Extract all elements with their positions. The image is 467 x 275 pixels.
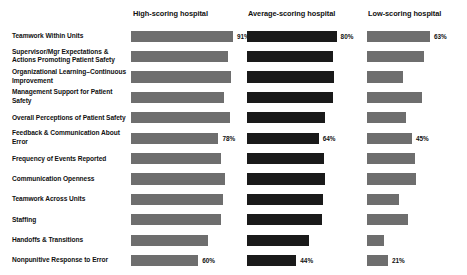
bar	[367, 173, 416, 184]
bar-value-label: 44%	[300, 257, 313, 264]
chart-row: Teamwork Within Units91%80%63%	[0, 26, 467, 46]
row-label: Organizational Learning–Continuous Impro…	[12, 68, 130, 85]
row-label: Communication Openness	[12, 175, 130, 184]
bar-cell	[247, 230, 359, 250]
bar	[247, 31, 337, 42]
column-headers: High-scoring hospital Average-scoring ho…	[0, 9, 467, 23]
bar	[247, 112, 325, 123]
bar-cell	[247, 169, 359, 189]
bar	[367, 51, 424, 62]
column-header-high-scoring: High-scoring hospital	[133, 9, 208, 18]
column-header-low-scoring: Low-scoring hospital	[368, 9, 441, 18]
bar-cell	[131, 230, 243, 250]
bar	[367, 92, 422, 103]
bar-cell: 64%	[247, 128, 359, 148]
bar	[367, 255, 388, 266]
bar-cell: 60%	[131, 250, 243, 270]
bar-cell: 21%	[367, 250, 467, 270]
bar-cell: 80%	[247, 26, 359, 46]
row-label: Supervisor/Mgr Expectations & Actions Pr…	[12, 48, 130, 65]
bar	[247, 153, 324, 164]
row-label: Teamwork Across Units	[12, 195, 130, 204]
bar	[367, 194, 399, 205]
row-label: Nonpunitive Response to Error	[12, 256, 130, 265]
bar	[247, 255, 296, 266]
chart-row: Nonpunitive Response to Error60%44%21%	[0, 250, 467, 270]
row-label: Frequency of Events Reported	[12, 154, 130, 163]
bar-value-label: 60%	[202, 257, 215, 264]
bar	[131, 31, 233, 42]
bar-cell	[367, 169, 467, 189]
bar-cell: 91%	[131, 26, 243, 46]
bar	[367, 153, 415, 164]
bar	[131, 112, 230, 123]
bar	[367, 112, 406, 123]
bar-cell	[367, 210, 467, 230]
bar-cell	[367, 46, 467, 66]
bar-value-label: 21%	[392, 257, 405, 264]
chart-row: Feedback & Communication About Error78%6…	[0, 128, 467, 148]
column-header-average-scoring: Average-scoring hospital	[248, 9, 335, 18]
chart-row: Overall Perceptions of Patient Safety	[0, 108, 467, 128]
bar-cell	[367, 108, 467, 128]
bar	[247, 214, 322, 225]
bar	[247, 173, 325, 184]
bar-cell	[367, 148, 467, 168]
chart-row: Management Support for Patient Safety	[0, 87, 467, 107]
bar-cell	[131, 169, 243, 189]
chart-row: Organizational Learning–Continuous Impro…	[0, 67, 467, 87]
row-label: Overall Perceptions of Patient Safety	[12, 113, 130, 122]
bar-value-label: 45%	[416, 135, 429, 142]
bar-value-label: 63%	[434, 33, 447, 40]
bar	[247, 51, 333, 62]
bar	[131, 194, 223, 205]
chart-row: Communication Openness	[0, 169, 467, 189]
chart-row: Frequency of Events Reported	[0, 148, 467, 168]
bar-cell	[247, 46, 359, 66]
bar-cell	[247, 148, 359, 168]
row-label: Feedback & Communication About Error	[12, 130, 130, 147]
bar-cell	[367, 189, 467, 209]
chart-rows: Teamwork Within Units91%80%63%Supervisor…	[0, 26, 467, 271]
bar	[131, 133, 218, 144]
bar-cell	[131, 210, 243, 230]
bar	[247, 235, 309, 246]
bar	[367, 31, 430, 42]
bar-cell	[367, 87, 467, 107]
chart-row: Supervisor/Mgr Expectations & Actions Pr…	[0, 46, 467, 66]
bar-cell	[367, 67, 467, 87]
row-label: Management Support for Patient Safety	[12, 89, 130, 106]
bar	[247, 194, 323, 205]
bar-value-label: 78%	[222, 135, 235, 142]
bar	[247, 133, 319, 144]
bar-cell	[247, 108, 359, 128]
bar	[131, 173, 225, 184]
chart-row: Staffing	[0, 210, 467, 230]
bar	[367, 133, 412, 144]
patient-safety-culture-bar-chart: High-scoring hospital Average-scoring ho…	[0, 0, 467, 275]
bar	[131, 153, 221, 164]
bar-cell	[247, 67, 359, 87]
bar-cell	[247, 210, 359, 230]
bar-value-label: 80%	[341, 33, 354, 40]
bar-cell	[131, 148, 243, 168]
bar-value-label: 64%	[323, 135, 336, 142]
row-label: Staffing	[12, 215, 130, 224]
bar	[247, 71, 334, 82]
bar-cell: 45%	[367, 128, 467, 148]
bar-cell	[367, 230, 467, 250]
chart-row: Handoffs & Transitions	[0, 230, 467, 250]
bar-cell	[131, 87, 243, 107]
bar-cell	[131, 67, 243, 87]
bar-cell: 63%	[367, 26, 467, 46]
bar-cell: 44%	[247, 250, 359, 270]
bar	[367, 71, 403, 82]
bar	[131, 255, 198, 266]
bar	[131, 235, 208, 246]
row-label: Handoffs & Transitions	[12, 236, 130, 245]
bar	[367, 235, 384, 246]
bar-cell	[131, 46, 243, 66]
bar-cell	[247, 87, 359, 107]
row-label: Teamwork Within Units	[12, 32, 130, 41]
bar	[247, 92, 333, 103]
